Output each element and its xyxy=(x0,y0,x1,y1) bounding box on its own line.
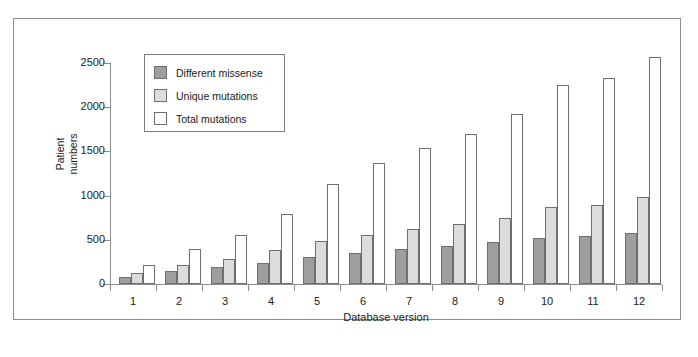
bar xyxy=(327,184,339,284)
legend-item: Unique mutations xyxy=(154,85,284,106)
x-tick-mark xyxy=(294,285,295,291)
bar xyxy=(465,134,477,284)
x-tick-label: 8 xyxy=(440,295,470,307)
legend-swatch-icon xyxy=(154,89,167,102)
x-tick-mark xyxy=(432,285,433,291)
x-tick-label: 4 xyxy=(256,295,286,307)
legend-swatch-icon xyxy=(154,66,167,79)
x-axis-label: Database version xyxy=(110,311,662,323)
legend-item: Total mutations xyxy=(154,108,284,129)
bar xyxy=(453,224,465,284)
x-tick-mark xyxy=(248,285,249,291)
y-tick-label: 0 xyxy=(99,277,105,289)
x-tick-label: 11 xyxy=(578,295,608,307)
x-tick-label: 3 xyxy=(210,295,240,307)
x-tick-mark xyxy=(386,285,387,291)
bar xyxy=(557,85,569,284)
bar-group xyxy=(533,63,569,284)
y-tick-label: 2500 xyxy=(81,56,105,68)
bar xyxy=(281,214,293,284)
x-tick-label: 2 xyxy=(164,295,194,307)
x-tick-mark xyxy=(662,285,663,291)
chart-legend: Different missenseUnique mutationsTotal … xyxy=(144,54,285,132)
y-axis-label: Patient numbers xyxy=(54,119,88,189)
bar xyxy=(269,250,281,284)
bar xyxy=(637,197,649,284)
bar xyxy=(165,271,177,284)
bar xyxy=(407,229,419,284)
x-tick-mark xyxy=(340,285,341,291)
bar xyxy=(591,205,603,284)
legend-label: Unique mutations xyxy=(176,90,258,102)
bar xyxy=(533,238,545,284)
bar xyxy=(361,235,373,285)
bar xyxy=(315,241,327,284)
bar xyxy=(143,265,155,284)
bar xyxy=(603,78,615,284)
bar xyxy=(177,265,189,284)
bar xyxy=(131,273,143,284)
x-tick-label: 7 xyxy=(394,295,424,307)
bar xyxy=(189,249,201,284)
bar xyxy=(257,263,269,284)
bar-group xyxy=(579,63,615,284)
bar xyxy=(373,163,385,284)
bar xyxy=(235,235,247,284)
x-tick-mark xyxy=(616,285,617,291)
bar xyxy=(441,246,453,284)
bar xyxy=(223,259,235,284)
bar xyxy=(211,267,223,284)
legend-label: Total mutations xyxy=(176,113,247,125)
bar xyxy=(487,242,499,284)
y-tick-label: 1000 xyxy=(81,189,105,201)
x-tick-label: 9 xyxy=(486,295,516,307)
bar-group xyxy=(303,63,339,284)
x-tick-label: 5 xyxy=(302,295,332,307)
bar xyxy=(499,218,511,284)
bar-group xyxy=(625,63,661,284)
legend-item: Different missense xyxy=(154,62,284,83)
bar xyxy=(419,148,431,284)
bar xyxy=(579,236,591,284)
bar xyxy=(511,114,523,284)
x-tick-mark xyxy=(156,285,157,291)
y-tick-label: 2000 xyxy=(81,100,105,112)
bar xyxy=(303,257,315,284)
x-tick-mark xyxy=(202,285,203,291)
bar-group xyxy=(487,63,523,284)
legend-swatch-icon xyxy=(154,112,167,125)
figure-frame: 05001000150020002500 123456789101112 Pat… xyxy=(13,18,681,320)
x-tick-mark xyxy=(110,285,111,291)
legend-label: Different missense xyxy=(176,67,263,79)
bar xyxy=(119,277,131,284)
bar-group xyxy=(395,63,431,284)
bar xyxy=(625,233,637,284)
bar xyxy=(349,253,361,284)
bar xyxy=(395,249,407,284)
x-tick-label: 12 xyxy=(624,295,654,307)
x-tick-mark xyxy=(570,285,571,291)
bar xyxy=(649,57,661,284)
bar xyxy=(545,207,557,284)
x-tick-label: 6 xyxy=(348,295,378,307)
x-tick-label: 10 xyxy=(532,295,562,307)
x-tick-mark xyxy=(478,285,479,291)
y-tick-label: 500 xyxy=(87,233,105,245)
x-tick-mark xyxy=(524,285,525,291)
bar-group xyxy=(349,63,385,284)
x-tick-label: 1 xyxy=(118,295,148,307)
bar-group xyxy=(441,63,477,284)
